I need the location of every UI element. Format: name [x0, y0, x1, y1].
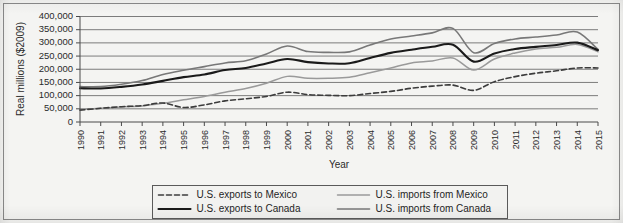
legend-label-imports-mexico: U.S. imports from Mexico — [376, 189, 489, 200]
y-tick-label-50,000: 50,000 — [44, 102, 73, 113]
x-tick-label-1996: 1996 — [200, 130, 210, 150]
x-tick-label-2001: 2001 — [303, 130, 313, 150]
x-tick-label-1990: 1990 — [76, 130, 86, 150]
x-axis-title: Year — [329, 159, 350, 170]
x-tick-label-1998: 1998 — [241, 130, 251, 150]
x-tick-label-2014: 2014 — [573, 130, 583, 150]
y-tick-label-300,000: 300,000 — [39, 36, 73, 47]
y-tick-label-250,000: 250,000 — [39, 50, 73, 61]
x-tick-label-2010: 2010 — [490, 130, 500, 150]
x-tick-label-2006: 2006 — [407, 130, 417, 150]
x-tick-label-2000: 2000 — [283, 130, 293, 150]
legend-label-imports-canada: U.S. imports from Canada — [376, 203, 492, 214]
x-tick-label-1993: 1993 — [138, 130, 148, 150]
x-tick-label-2013: 2013 — [552, 130, 562, 150]
y-tick-label-400,000: 400,000 — [39, 10, 73, 21]
y-tick-label-350,000: 350,000 — [39, 23, 73, 34]
x-tick-label-1999: 1999 — [262, 130, 272, 150]
x-tick-label-2009: 2009 — [469, 130, 479, 150]
y-tick-label-200,000: 200,000 — [39, 63, 73, 74]
y-tick-label-150,000: 150,000 — [39, 76, 73, 87]
y-tick-label-100,000: 100,000 — [39, 89, 73, 100]
x-tick-label-1995: 1995 — [179, 130, 189, 150]
x-tick-label-2012: 2012 — [531, 130, 541, 150]
x-tick-label-2003: 2003 — [345, 130, 355, 150]
x-tick-label-2011: 2011 — [511, 130, 521, 149]
x-tick-label-2002: 2002 — [324, 130, 334, 150]
x-tick-label-1992: 1992 — [117, 130, 127, 150]
legend-label-exports-canada: U.S. exports to Canada — [197, 203, 301, 214]
chart-figure: 050,000100,000150,000200,000250,000300,0… — [0, 0, 623, 223]
x-tick-label-1997: 1997 — [221, 130, 231, 150]
x-tick-label-2005: 2005 — [386, 130, 396, 150]
legend-label-exports-mexico: U.S. exports to Mexico — [197, 189, 298, 200]
y-axis-tick-labels-group: 050,000100,000150,000200,000250,000300,0… — [39, 10, 73, 127]
x-tick-label-1994: 1994 — [158, 130, 168, 150]
x-tick-label-2008: 2008 — [448, 130, 458, 150]
x-tick-label-2007: 2007 — [428, 130, 438, 150]
trade-line-chart: 050,000100,000150,000200,000250,000300,0… — [0, 0, 623, 223]
x-tick-label-2004: 2004 — [366, 130, 376, 150]
x-tick-label-1991: 1991 — [96, 130, 106, 150]
x-tick-label-2015: 2015 — [594, 130, 604, 150]
chart-legend: U.S. exports to MexicoU.S. imports from … — [153, 186, 508, 219]
y-tick-label-0: 0 — [68, 116, 73, 127]
y-axis-title: Real millions ($2009) — [15, 22, 26, 116]
